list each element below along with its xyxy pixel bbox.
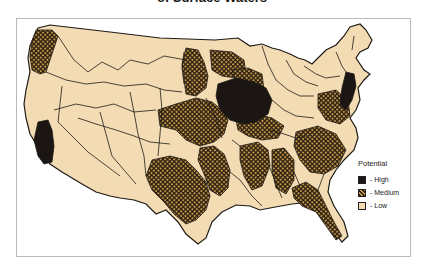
california-central-valley-high xyxy=(34,120,54,164)
map-legend: Potential - High - Medium - Low xyxy=(358,159,399,212)
medium-swatch-icon xyxy=(358,189,366,197)
legend-label-low: - Low xyxy=(370,202,387,209)
us-map xyxy=(0,0,424,273)
legend-item-medium: - Medium xyxy=(358,186,399,199)
legend-label-high: - High xyxy=(370,176,389,183)
low-swatch-icon xyxy=(358,202,366,210)
legend-label-medium: - Medium xyxy=(370,189,399,196)
legend-title: Potential xyxy=(358,159,399,168)
legend-item-low: - Low xyxy=(358,199,399,212)
legend-item-high: - High xyxy=(358,173,399,186)
high-swatch-icon xyxy=(358,176,366,184)
